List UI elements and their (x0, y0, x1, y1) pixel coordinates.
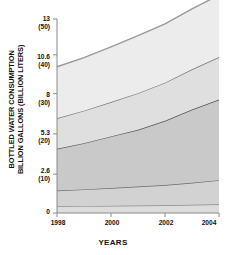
y-tick-marks (53, 19, 57, 213)
x-tick-1998: 1998 (41, 219, 75, 226)
x-axis-title: YEARS (0, 238, 226, 247)
x-tick-2004: 2004 (192, 219, 226, 226)
x-tick-2002: 2002 (149, 219, 183, 226)
x-tick-marks (57, 213, 219, 217)
x-tick-2000: 2000 (95, 219, 129, 226)
stacked-areas (57, 0, 219, 213)
chart-container: BOTTLED WATER CONSUMPTION BILLION GALLON… (0, 0, 226, 255)
chart-plot (0, 0, 226, 255)
